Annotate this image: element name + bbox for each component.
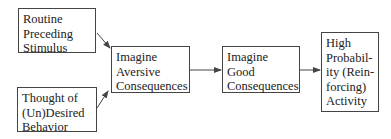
box-routine-preceding-stimulus: Routine Preceding Stimulus: [18, 8, 96, 53]
box-line: Aversive: [116, 65, 185, 80]
box-line: Imagine: [116, 50, 185, 65]
box-high-probability-activity: High Probabil- ity (Rein- forcing) Activ…: [321, 32, 379, 112]
box-line: ity (Rein-: [326, 65, 374, 80]
arrow-thought-to-aversive: [97, 91, 108, 108]
box-imagine-good-consequences: Imagine Good Consequences: [222, 46, 300, 93]
box-line: Routine: [23, 12, 91, 27]
box-thought-of-desired-behavior: Thought of (Un)Desired Behavior: [17, 87, 97, 132]
box-line: Probabil-: [326, 51, 374, 66]
flow-diagram: Routine Preceding Stimulus Thought of (U…: [0, 0, 391, 139]
box-line: Activity: [326, 94, 374, 109]
box-line: High: [326, 36, 374, 51]
arrow-routine-to-aversive: [97, 33, 110, 48]
box-line: Consequences: [116, 79, 185, 94]
box-line: forcing): [326, 80, 374, 95]
box-line: Consequences: [227, 79, 295, 94]
box-imagine-aversive-consequences: Imagine Aversive Consequences: [111, 46, 190, 93]
box-line: Good: [227, 65, 295, 80]
box-line: Imagine: [227, 50, 295, 65]
box-line: Stimulus: [23, 41, 91, 56]
box-line: Preceding: [23, 27, 91, 42]
box-line: Behavior: [22, 120, 92, 135]
box-line: Thought of: [22, 91, 92, 106]
box-line: (Un)Desired: [22, 106, 92, 121]
